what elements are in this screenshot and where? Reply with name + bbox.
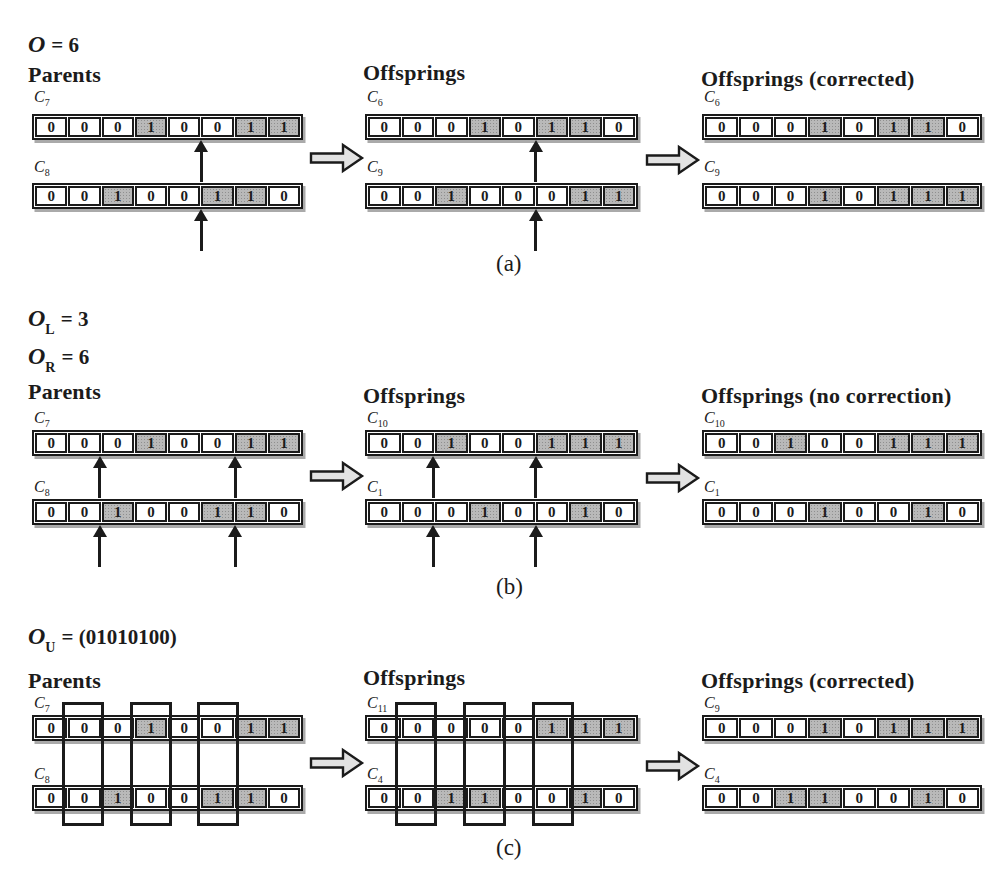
panel-title: Parents xyxy=(28,668,101,694)
crossover-point-arrow-icon xyxy=(228,456,243,498)
gene-cell: 0 xyxy=(705,433,738,453)
arrow-stem xyxy=(432,537,435,567)
chromosome-label: C7 xyxy=(34,409,50,427)
gene-cell: 1 xyxy=(235,117,267,137)
gene-cell: 0 xyxy=(536,186,569,206)
section-caption: (c) xyxy=(496,835,522,861)
gene-cell: 0 xyxy=(536,502,569,522)
swap-region-box xyxy=(130,702,172,826)
arrow-stem xyxy=(98,537,101,567)
swap-region-box xyxy=(532,702,574,826)
gene-cell: 1 xyxy=(102,186,134,206)
gene-cell: 0 xyxy=(469,433,502,453)
gene-cell: 1 xyxy=(911,788,944,808)
gene-cell: 1 xyxy=(911,718,944,738)
chromosome-label: C6 xyxy=(367,88,383,106)
crossover-parameter: O= 6 xyxy=(28,31,79,58)
chromosome-label: C9 xyxy=(704,694,720,712)
gene-cell: 1 xyxy=(877,718,910,738)
parameter-value: = 6 xyxy=(61,345,89,369)
gene-cell: 1 xyxy=(946,718,979,738)
crossover-point-arrow-icon xyxy=(528,525,543,567)
gene-cell: 0 xyxy=(168,186,200,206)
chromosome-label: C1 xyxy=(704,478,720,496)
crossover-point-arrow-icon xyxy=(426,525,441,567)
gene-cell: 1 xyxy=(808,186,841,206)
gene-cell: 1 xyxy=(135,433,167,453)
chromosome-row: 00100011 xyxy=(365,183,638,209)
crossover-point-arrow-icon xyxy=(92,456,107,498)
chromosome-index: 4 xyxy=(378,774,383,785)
gene-cell: 0 xyxy=(435,502,468,522)
chromosome-index: 1 xyxy=(715,487,720,498)
swap-region-box xyxy=(197,702,239,826)
gene-cell: 0 xyxy=(168,433,200,453)
chromosome-row: 00010011 xyxy=(32,114,303,140)
arrow-stem xyxy=(234,537,237,567)
chromosome-label: C8 xyxy=(34,478,50,496)
gene-cell: 0 xyxy=(135,186,167,206)
chromosome-label: C8 xyxy=(34,158,50,176)
chromosome-symbol: C xyxy=(367,88,378,105)
gene-cell: 0 xyxy=(368,117,401,137)
chromosome-symbol: C xyxy=(367,694,378,711)
arrow-head xyxy=(426,456,440,468)
chromosome-symbol: C xyxy=(704,765,715,782)
arrow-stem xyxy=(534,537,537,567)
swap-region-box xyxy=(395,702,437,826)
panel-title: Offsprings (corrected) xyxy=(701,66,915,92)
gene-cell: 0 xyxy=(843,433,876,453)
chromosome-label: C1 xyxy=(367,478,383,496)
gene-cell: 0 xyxy=(268,502,300,522)
chromosome-label: C9 xyxy=(704,158,720,176)
chromosome-row: 00110010 xyxy=(702,785,982,811)
gene-cell: 0 xyxy=(68,117,100,137)
swap-region-box xyxy=(463,702,505,826)
chromosome-index: 10 xyxy=(715,418,725,429)
gene-cell: 0 xyxy=(843,718,876,738)
chromosome-label: C10 xyxy=(704,409,725,427)
gene-cell: 1 xyxy=(569,718,602,738)
gene-cell: 0 xyxy=(368,502,401,522)
gene-cell: 0 xyxy=(705,718,738,738)
arrow-head xyxy=(529,456,543,468)
gene-cell: 0 xyxy=(68,433,100,453)
gene-cell: 0 xyxy=(603,502,636,522)
gene-cell: 0 xyxy=(774,502,807,522)
chromosome-index: 10 xyxy=(378,418,388,429)
chromosome-symbol: C xyxy=(704,158,715,175)
chromosome-label: C4 xyxy=(367,765,383,783)
gene-cell: 0 xyxy=(268,788,300,808)
chromosome-symbol: C xyxy=(704,694,715,711)
crossover-point-arrow-icon xyxy=(528,209,543,251)
gene-cell: 1 xyxy=(435,433,468,453)
chromosome-symbol: C xyxy=(34,158,45,175)
chromosome-symbol: C xyxy=(34,694,45,711)
gene-cell: 1 xyxy=(268,117,300,137)
block-arrow-right-icon xyxy=(309,746,365,780)
gene-cell: 0 xyxy=(35,433,67,453)
arrow-head xyxy=(529,209,543,221)
crossover-point-arrow-icon xyxy=(194,209,209,251)
crossover-point-arrow-icon xyxy=(92,525,107,567)
gene-cell: 1 xyxy=(603,186,636,206)
chromosome-row: 00010110 xyxy=(365,114,638,140)
gene-cell: 1 xyxy=(201,186,233,206)
arrow-stem xyxy=(534,221,537,251)
chromosome-symbol: C xyxy=(34,88,45,105)
crossover-point-arrow-icon xyxy=(528,456,543,498)
gene-cell: 1 xyxy=(946,186,979,206)
parameter-value: = 6 xyxy=(51,33,79,57)
gene-cell: 1 xyxy=(235,502,267,522)
gene-cell: 1 xyxy=(268,718,300,738)
gene-cell: 0 xyxy=(739,502,772,522)
crossover-point-arrow-icon xyxy=(426,456,441,498)
crossover-operators-figure: O= 6(a)ParentsC700010011C800100110Offspr… xyxy=(0,0,1003,877)
gene-cell: 1 xyxy=(268,433,300,453)
chromosome-symbol: C xyxy=(34,409,45,426)
gene-cell: 0 xyxy=(774,117,807,137)
gene-cell: 1 xyxy=(569,433,602,453)
chromosome-index: 8 xyxy=(45,167,50,178)
chromosome-index: 11 xyxy=(378,703,388,714)
arrow-head xyxy=(529,525,543,537)
